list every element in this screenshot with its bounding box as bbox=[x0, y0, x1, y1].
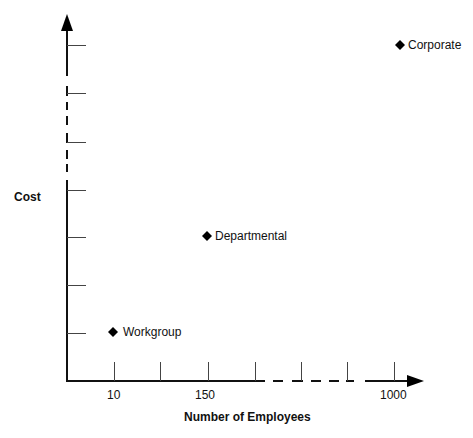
x-ticks bbox=[115, 362, 395, 381]
x-tick-label-150: 150 bbox=[195, 388, 215, 402]
y-axis-title: Cost bbox=[14, 190, 41, 204]
x-axis-title: Number of Employees bbox=[184, 410, 311, 424]
corporate-diamond-icon bbox=[395, 40, 405, 50]
workgroup-diamond-icon bbox=[108, 327, 118, 337]
departmental-diamond-icon bbox=[202, 231, 212, 241]
y-ticks bbox=[67, 46, 86, 334]
x-tick-label-1000: 1000 bbox=[380, 388, 407, 402]
point-label-departmental: Departmental bbox=[215, 229, 287, 243]
point-label-corporate: Corporate bbox=[408, 38, 461, 52]
x-tick-label-10: 10 bbox=[107, 388, 120, 402]
y-axis-arrow-icon bbox=[61, 14, 73, 31]
x-axis-arrow-icon bbox=[407, 375, 424, 387]
chart-canvas bbox=[0, 0, 473, 438]
point-label-workgroup: Workgroup bbox=[123, 325, 181, 339]
